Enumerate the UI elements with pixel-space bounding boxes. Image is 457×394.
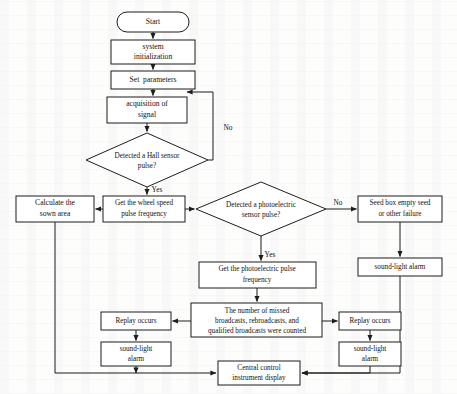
hall-decision-label-line2: pulse? — [138, 162, 156, 170]
count-broadcasts-label-line3: qualified broadcasts were counted — [208, 327, 306, 335]
photo-freq-label-line2: frequency — [243, 276, 272, 284]
node-sound-light-alarm-right-bottom[interactable]: sound-light alarm — [339, 342, 401, 366]
alarm-left-label-line1: sound-light — [120, 345, 153, 353]
photo-freq-label-line1: Get the photoelectric pulse — [218, 265, 295, 273]
system-initialization-label-line1: system — [142, 42, 163, 51]
node-get-wheel-speed-pulse-frequency[interactable]: Get the wheel speed pulse frequency — [103, 196, 185, 222]
edge-label-photo-yes: Yes — [265, 250, 276, 259]
node-count-broadcasts[interactable]: The number of missed broadcasts, rebroad… — [191, 303, 322, 337]
flowchart-svg: Start system initialization Set paramete… — [0, 0, 457, 394]
node-hall-sensor-decision[interactable]: Detected a Hall sensor pulse? — [86, 133, 208, 187]
edge-label-photo-no: No — [333, 198, 342, 207]
alarm-right-top-label: sound-light alarm — [375, 263, 426, 271]
node-photoelectric-sensor-decision[interactable]: Detected a photoelectric sensor pulse? — [196, 182, 326, 236]
hall-sensor-decision-shape — [86, 133, 208, 187]
node-start[interactable]: Start — [117, 12, 189, 32]
start-label: Start — [146, 17, 161, 26]
node-central-control-display[interactable]: Central control instrument display — [218, 361, 300, 385]
node-system-initialization[interactable]: system initialization — [111, 40, 195, 64]
node-replay-occurs-right[interactable]: Replay occurs — [339, 312, 401, 330]
photo-decision-label-line1: Detected a photoelectric — [226, 201, 296, 209]
acquisition-label-line2: signal — [138, 110, 156, 119]
edge-alarm-right-bottom-to-central — [302, 366, 370, 373]
node-acquisition-of-signal[interactable]: acquisition of signal — [107, 97, 187, 123]
node-get-photoelectric-pulse-frequency[interactable]: Get the photoelectric pulse frequency — [199, 262, 316, 288]
count-broadcasts-label-line2: broadcasts, rebroadcasts, and — [215, 317, 299, 325]
node-sound-light-alarm-left[interactable]: sound-light alarm — [101, 342, 171, 366]
edge-label-hall-no: No — [223, 123, 232, 132]
acquisition-label-line1: acquisition of — [126, 99, 168, 108]
node-replay-occurs-left[interactable]: Replay occurs — [101, 312, 171, 330]
wheel-speed-label-line2: pulse frequency — [121, 210, 167, 218]
calculate-area-label-line2: sown area — [40, 209, 71, 218]
node-set-parameters[interactable]: Set parameters — [111, 71, 195, 89]
replay-right-label: Replay occurs — [350, 317, 391, 325]
central-display-label-line1: Central control — [237, 364, 280, 372]
node-layer: Start system initialization Set paramete… — [16, 12, 442, 385]
seed-box-label-line1: Seed box empty seed — [370, 199, 431, 207]
seed-box-label-line2: or other failure — [378, 210, 421, 218]
calculate-area-label-line1: Calculate the — [35, 198, 75, 207]
edge-label-hall-yes: Yes — [152, 185, 163, 194]
alarm-right-bottom-label-line1: sound-light — [354, 345, 387, 353]
node-calculate-sown-area[interactable]: Calculate the sown area — [16, 196, 94, 222]
flowchart-canvas: Start system initialization Set paramete… — [0, 0, 457, 394]
hall-decision-label-line1: Detected a Hall sensor — [115, 152, 180, 160]
count-broadcasts-label-line1: The number of missed — [225, 307, 290, 315]
photo-decision-label-line2: sensor pulse? — [242, 211, 281, 219]
wheel-speed-label-line1: Get the wheel speed — [115, 199, 173, 207]
node-sound-light-alarm-right-top[interactable]: sound-light alarm — [358, 258, 442, 276]
edge-hall-no-loop — [187, 92, 213, 160]
node-seed-box-failure[interactable]: Seed box empty seed or other failure — [358, 196, 442, 222]
set-parameters-label: Set parameters — [130, 75, 177, 84]
alarm-left-label-line2: alarm — [128, 355, 145, 363]
alarm-right-bottom-label-line2: alarm — [362, 355, 379, 363]
replay-left-label: Replay occurs — [116, 317, 157, 325]
central-display-label-line2: instrument display — [232, 374, 286, 382]
photoelectric-decision-shape — [196, 182, 326, 236]
system-initialization-label-line2: initialization — [134, 52, 173, 61]
